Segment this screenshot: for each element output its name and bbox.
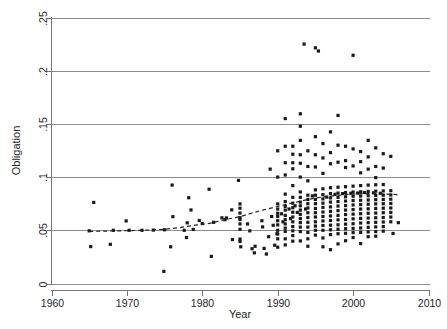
data-point	[291, 145, 294, 148]
data-point	[198, 219, 201, 222]
data-point	[276, 223, 279, 226]
data-point	[220, 216, 223, 219]
data-point	[238, 211, 241, 214]
data-point	[306, 165, 309, 168]
data-point	[280, 212, 283, 215]
data-point	[238, 202, 241, 205]
data-point	[374, 235, 377, 238]
data-point	[287, 207, 290, 210]
data-point	[299, 208, 302, 211]
data-point	[336, 196, 339, 199]
data-point	[284, 222, 287, 225]
data-point	[246, 222, 249, 225]
data-point	[263, 247, 266, 250]
data-point	[291, 225, 294, 228]
data-point	[238, 218, 241, 221]
data-point	[336, 209, 339, 212]
data-point	[299, 153, 302, 156]
data-point	[284, 145, 287, 148]
data-point	[329, 151, 332, 154]
data-point	[367, 207, 370, 210]
data-point	[374, 221, 377, 224]
data-point	[329, 228, 332, 231]
data-point	[344, 199, 347, 202]
data-point	[382, 225, 385, 228]
data-point	[321, 206, 324, 209]
data-point	[367, 183, 370, 186]
data-point	[299, 176, 302, 179]
y-tick-label-1: .05	[37, 223, 49, 238]
data-point	[374, 146, 377, 149]
data-point	[272, 224, 275, 227]
data-point	[336, 204, 339, 207]
data-point	[306, 202, 309, 205]
data-point	[239, 245, 242, 248]
data-point	[367, 139, 370, 142]
data-point	[367, 212, 370, 215]
data-point	[169, 245, 172, 248]
data-point	[314, 233, 317, 236]
data-point	[321, 202, 324, 205]
data-point	[336, 186, 339, 189]
data-point	[382, 220, 385, 223]
y-tick-label-0: 0	[37, 281, 49, 287]
data-point	[284, 218, 287, 221]
data-point	[302, 43, 305, 46]
data-point	[267, 235, 270, 238]
data-point	[276, 237, 279, 240]
data-point	[314, 153, 317, 156]
scatter-chart-figure: 0.05.1.15.2.25196019701980199020002010Ob…	[0, 0, 447, 329]
data-point	[329, 248, 332, 251]
data-point	[273, 244, 276, 247]
data-point	[225, 216, 228, 219]
data-point	[352, 236, 355, 239]
data-point	[192, 228, 195, 231]
data-point	[367, 221, 370, 224]
data-point	[299, 196, 302, 199]
data-point	[291, 196, 294, 199]
y-axis-title-text: Obligation	[10, 126, 22, 176]
data-point	[299, 213, 302, 216]
data-point	[367, 198, 370, 201]
data-point	[183, 229, 186, 232]
data-point	[284, 243, 287, 246]
data-point	[336, 144, 339, 147]
data-point	[321, 229, 324, 232]
data-point	[336, 218, 339, 221]
data-point	[291, 184, 294, 187]
data-point	[306, 245, 309, 248]
data-point	[276, 202, 279, 205]
data-point	[314, 194, 317, 197]
data-point	[291, 220, 294, 223]
data-point	[389, 202, 392, 205]
data-point	[344, 239, 347, 242]
data-point	[299, 230, 302, 233]
data-point	[389, 155, 392, 158]
data-point	[329, 192, 332, 195]
data-point	[276, 212, 279, 215]
data-point	[314, 202, 317, 205]
x-tick-label-5: 2010	[418, 297, 442, 309]
data-point	[344, 223, 347, 226]
data-point	[250, 247, 253, 250]
data-point	[306, 221, 309, 224]
data-point	[359, 171, 362, 174]
data-point	[382, 152, 385, 155]
data-point	[382, 183, 385, 186]
data-point	[374, 194, 377, 197]
data-point	[336, 114, 339, 117]
x-tick-label-3: 1990	[267, 297, 291, 309]
data-point	[321, 156, 324, 159]
data-point	[397, 221, 400, 224]
data-point	[276, 229, 279, 232]
data-point	[261, 225, 264, 228]
data-point	[299, 217, 302, 220]
data-point	[276, 232, 279, 235]
data-point	[238, 222, 241, 225]
y-tick-label-3: .15	[37, 117, 49, 132]
y-tick-label-2: .1	[37, 173, 49, 182]
data-point	[321, 215, 324, 218]
data-point	[329, 214, 332, 217]
data-point	[329, 186, 332, 189]
data-point	[344, 232, 347, 235]
